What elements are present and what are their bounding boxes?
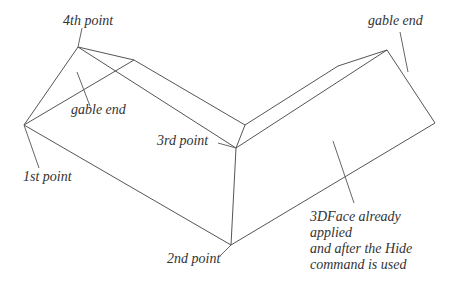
note-line-4: command is used	[310, 257, 420, 273]
label-2nd-point: 2nd point	[167, 251, 220, 267]
label-4th-point: 4th point	[63, 13, 113, 29]
label-3rd-point: 3rd point	[157, 133, 208, 149]
note-3dface-hide: 3DFace already applied and after the Hid…	[310, 209, 420, 273]
note-line-3: and after the Hide	[310, 241, 420, 257]
label-gable-end-right: gable end	[368, 13, 423, 29]
note-line-1: 3DFace already	[310, 209, 420, 225]
label-1st-point: 1st point	[23, 169, 72, 185]
label-gable-end-left: gable end	[71, 102, 126, 118]
note-line-2: applied	[310, 225, 420, 241]
